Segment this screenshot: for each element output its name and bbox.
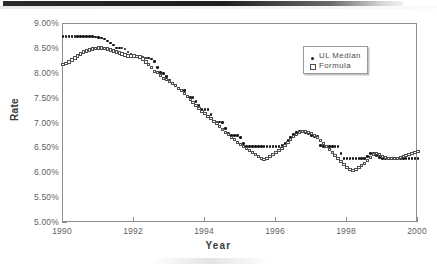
legend-label-formula: Formula: [319, 61, 351, 70]
data-point-ul-median: [112, 44, 115, 47]
data-point-ul-median: [156, 66, 159, 69]
data-point-formula: [369, 156, 372, 159]
y-axis-tick-labels: 9.00%8.50%8.00%7.50%7.00%6.50%6.00%5.50%…: [4, 23, 59, 222]
data-point-ul-median: [210, 113, 213, 116]
data-point-ul-median: [127, 51, 130, 54]
data-point-formula: [416, 150, 419, 153]
x-axis-tickmark: [346, 217, 347, 222]
y-axis-tick-label: 7.50%: [11, 93, 59, 103]
data-point-ul-median: [355, 157, 358, 160]
chart-legend: UL Median Formula: [303, 46, 368, 74]
data-point-formula: [283, 144, 286, 147]
data-point-ul-median: [417, 157, 420, 160]
data-point-ul-median: [239, 136, 242, 139]
data-point-formula: [363, 162, 366, 165]
y-axis-tick-label: 6.50%: [11, 142, 59, 152]
data-point-formula: [286, 141, 289, 144]
data-point-ul-median: [411, 157, 414, 160]
x-axis-tick-label: 1996: [265, 226, 285, 236]
data-point-ul-median: [65, 35, 68, 38]
x-axis-tickmark: [275, 217, 276, 222]
scan-artifact-smudge: [150, 258, 270, 264]
y-axis-tick-label: 5.50%: [11, 192, 59, 202]
x-axis-tick-label: 2000: [407, 226, 427, 236]
data-point-ul-median: [153, 60, 156, 63]
data-point-formula: [289, 138, 292, 141]
data-point-ul-median: [346, 157, 349, 160]
x-axis-tick-labels: 199019921994199619982000: [0, 226, 437, 240]
data-point-ul-median: [349, 157, 352, 160]
data-point-formula: [280, 147, 283, 150]
data-point-ul-median: [192, 96, 195, 99]
x-axis-tickmark: [133, 217, 134, 222]
y-axis-tick-label: 9.00%: [11, 18, 59, 28]
scan-artifact-band-soft: [0, 6, 437, 9]
legend-label-ul-median: UL Median: [319, 51, 361, 60]
data-point-ul-median: [337, 145, 340, 148]
data-point-ul-median: [71, 35, 74, 38]
data-point-ul-median: [275, 145, 278, 148]
data-point-ul-median: [62, 35, 65, 38]
data-point-ul-median: [343, 157, 346, 160]
data-point-ul-median: [68, 35, 71, 38]
data-point-ul-median: [221, 121, 224, 124]
x-axis-tickmark: [417, 217, 418, 222]
y-axis-tick-label: 8.50%: [11, 43, 59, 53]
x-axis-tickmark: [62, 217, 63, 222]
y-axis-tick-label: 7.00%: [11, 118, 59, 128]
data-point-formula: [150, 66, 153, 69]
data-point-ul-median: [224, 127, 227, 130]
y-axis-tick-label: 8.00%: [11, 68, 59, 78]
data-point-ul-median: [204, 108, 207, 111]
x-axis-title: Year: [0, 240, 437, 251]
x-axis-tick-label: 1994: [194, 226, 214, 236]
x-axis-tickmark: [204, 217, 205, 222]
x-axis-tick-label: 1998: [336, 226, 356, 236]
x-axis-tick-label: 1992: [123, 226, 143, 236]
data-point-ul-median: [269, 145, 272, 148]
data-point-ul-median: [124, 48, 127, 51]
chart-container: Rate 9.00%8.50%8.00%7.50%7.00%6.50%6.00%…: [0, 0, 437, 265]
data-point-formula: [366, 159, 369, 162]
open-square-marker-icon: [308, 56, 317, 74]
y-axis-tick-label: 6.00%: [11, 167, 59, 177]
x-axis-tick-label: 1990: [52, 226, 72, 236]
y-axis-tickmark: [62, 222, 67, 223]
data-point-ul-median: [207, 108, 210, 111]
data-point-ul-median: [272, 145, 275, 148]
data-point-ul-median: [340, 152, 343, 155]
data-point-ul-median: [414, 157, 417, 160]
data-point-ul-median: [195, 100, 198, 103]
legend-item-formula: Formula: [308, 60, 361, 70]
data-point-ul-median: [352, 157, 355, 160]
